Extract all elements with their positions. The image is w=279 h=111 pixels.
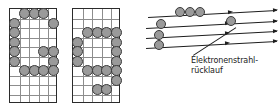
scan-line-1 (148, 10, 277, 18)
beam-direction-arrow (273, 19, 278, 23)
matrix-dot (72, 56, 83, 67)
scan-line-3 (146, 31, 277, 39)
beam-direction-arrow (273, 29, 278, 33)
beam-spot (195, 7, 205, 17)
grid-line-horizontal (73, 19, 119, 20)
character-grid-left (9, 8, 57, 103)
beam-spot (154, 40, 164, 50)
matrix-dot (9, 56, 20, 67)
retrace-caption-line2: rücklauf (191, 66, 223, 76)
beam-direction-arrow (224, 41, 229, 45)
beam-spot (156, 19, 166, 29)
retrace-leader-line (193, 27, 237, 56)
grid-line-horizontal (10, 76, 56, 77)
grid-cells-left (9, 8, 57, 103)
grid-line-horizontal (10, 95, 56, 96)
beam-spot (226, 16, 236, 26)
beam-spot (154, 30, 164, 40)
grid-line-horizontal (10, 85, 56, 86)
grid-line-horizontal (73, 95, 119, 96)
figure-root: Elektronenstrahl- rücklauf (0, 0, 279, 111)
grid-line-vertical (29, 9, 30, 102)
character-grid-right (72, 8, 120, 103)
matrix-dot (48, 65, 59, 76)
grid-line-vertical (20, 9, 21, 102)
beam-direction-arrow (228, 10, 233, 14)
matrix-dot (48, 18, 59, 29)
matrix-dot (111, 75, 122, 86)
grid-line-vertical (83, 9, 84, 102)
beam-direction-arrow (273, 8, 278, 12)
grid-cells-right (72, 8, 120, 103)
beam-spot (185, 7, 195, 17)
beam-spot (175, 7, 185, 17)
beam-direction-arrow (273, 39, 278, 43)
retrace-caption-line1: Elektronenstrahl- (191, 56, 258, 66)
